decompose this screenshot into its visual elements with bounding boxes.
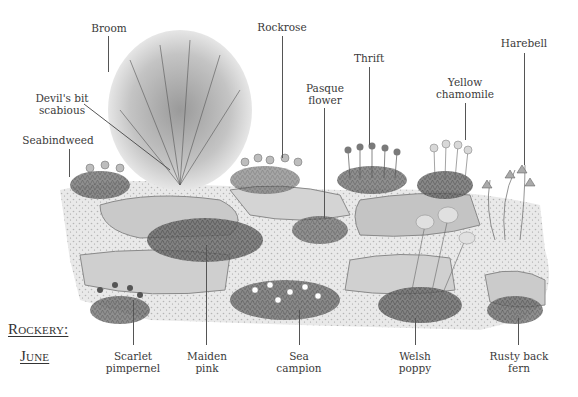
diagram-title-rockery: Rockery: [8,320,68,338]
label-welsh-poppy: Welshpoppy [399,350,431,374]
leader-line-sea-campion [299,310,300,345]
title-line-1: Rockery: [8,321,68,337]
leader-line-pasque-flower [324,108,325,218]
leader-line-welsh-poppy [415,318,416,345]
label-pasque-flower: Pasqueflower [306,82,344,106]
label-harebell: Harebell [501,37,547,49]
label-maiden-pink: Maidenpink [187,350,227,374]
leader-line-yellow-chamomile [465,103,466,140]
leader-line-rockrose [282,36,283,158]
label-yellow-chamomile: Yellowchamomile [436,76,494,100]
leader-line-maiden-pink [206,245,207,345]
leader-line-thrift [369,67,370,145]
diagram-subtitle-june: June [20,347,49,365]
title-line-2: June [20,348,49,364]
label-sea-campion: Seacampion [276,350,321,374]
leader-line-seabindweed [69,149,70,177]
label-thrift: Thrift [354,52,384,64]
leader-line-devils-bit-scabious [0,0,578,397]
label-scarlet-pimpernel: Scarletpimpernel [106,350,160,374]
leader-line-scarlet-pimpernel [133,300,134,345]
label-rusty-back-fern: Rusty backfern [490,350,549,374]
label-rockrose: Rockrose [257,21,306,33]
label-seabindweed: Seabindweed [22,134,93,146]
leader-line-rusty-back-fern [518,318,519,345]
leader-line-harebell [524,53,525,165]
